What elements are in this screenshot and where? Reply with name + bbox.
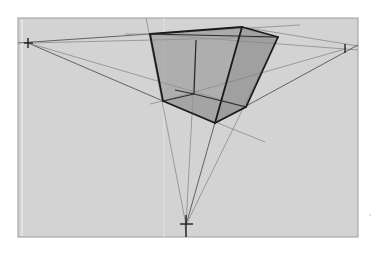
stray-mark	[369, 214, 371, 216]
perspective-drawing	[0, 0, 372, 255]
